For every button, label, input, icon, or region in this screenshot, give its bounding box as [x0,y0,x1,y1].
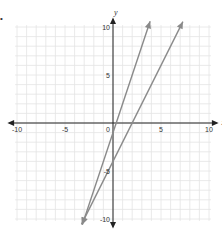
coordinate-plane: -10-5510105-5-100xy [0,0,222,230]
x-tick-label: 5 [159,126,163,133]
y-tick-label: -10 [100,216,110,223]
y-arrow-down-icon [110,222,116,229]
x-axis-label: x [221,118,222,127]
y-tick-label: 5 [106,72,110,79]
y-arrow-up-icon [110,17,116,24]
origin-label: 0 [106,126,110,133]
x-tick-label: -10 [12,126,22,133]
arrowhead-icon [145,21,151,29]
y-axis-label: y [113,8,118,17]
y-tick-label: -5 [104,168,110,175]
axes [7,17,218,228]
x-tick-label: -5 [62,126,68,133]
x-tick-label: 10 [205,126,213,133]
y-tick-label: 10 [102,24,110,31]
